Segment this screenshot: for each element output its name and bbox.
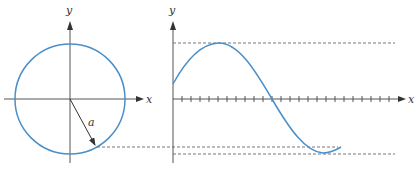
radius-label: a: [88, 116, 95, 129]
left-y-label: y: [65, 4, 73, 17]
left-x-arrow-icon: [136, 96, 144, 102]
left-panel: x y a: [4, 4, 153, 163]
sine-curve: [173, 43, 341, 153]
right-x-arrow-icon: [398, 96, 406, 102]
left-x-label: x: [146, 93, 153, 106]
right-y-arrow-icon: [170, 21, 176, 30]
right-panel: y x: [168, 4, 415, 163]
right-x-label: x: [408, 93, 415, 106]
left-y-arrow-icon: [67, 21, 73, 30]
circle-sinusoid-diagram: x y a y x: [0, 0, 415, 174]
right-y-label: y: [168, 4, 176, 17]
